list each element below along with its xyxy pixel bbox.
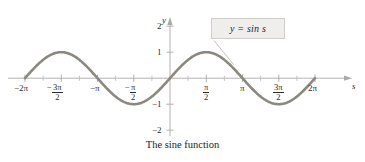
numerator: 3π: [273, 83, 284, 92]
x-tick-label-2pi: 2π: [308, 84, 317, 93]
x-tick-label-neg-pi-over-2: − π 2: [130, 83, 136, 102]
y-tick-label-1: 1: [157, 48, 162, 57]
y-tick-label-neg-1: −1: [152, 100, 162, 109]
x-tick-label-neg-pi: −π: [90, 84, 100, 93]
x-axis: [8, 76, 352, 81]
x-tick-label-3pi-over-2: 3π 2: [273, 83, 284, 102]
numerator: π: [203, 83, 209, 92]
callout-label: y = sin s: [230, 23, 266, 34]
x-tick-value: 2π: [19, 83, 28, 93]
y-axis-label: y: [162, 16, 166, 25]
y-tick-label-2: 2: [157, 22, 162, 31]
minus-sign: −: [47, 83, 52, 92]
denominator: 2: [52, 92, 63, 102]
x-tick-value: π: [95, 83, 100, 93]
denominator: 2: [273, 92, 284, 102]
x-axis-arrow: [344, 76, 352, 81]
figure-canvas: y = sin s y s −2π − 3π 2 −π − π 2 π 2 π …: [0, 0, 365, 162]
y-axis-arrow: [167, 17, 172, 25]
sine-function-plot: [0, 0, 365, 162]
x-tick-label-neg-3pi-over-2: − 3π 2: [52, 83, 63, 102]
numerator: π: [130, 83, 136, 92]
x-tick-label-pi: π: [240, 84, 245, 93]
x-tick-label-neg-2pi: −2π: [14, 84, 28, 93]
minus-sign: −: [125, 83, 130, 92]
y-tick-label-neg-2: −2: [152, 126, 162, 135]
x-tick-label-pi-over-2: π 2: [203, 83, 209, 102]
denominator: 2: [130, 92, 136, 102]
figure-caption: The sine function: [0, 139, 365, 150]
x-axis-label: s: [352, 82, 356, 91]
callout-box: y = sin s: [211, 18, 285, 39]
denominator: 2: [203, 92, 209, 102]
numerator: 3π: [52, 83, 63, 92]
